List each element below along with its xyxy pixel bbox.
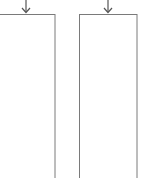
arrow-down-icon [22,0,30,13]
diagram-canvas [0,0,147,178]
box-left [0,15,55,179]
arrow-down-icon [104,0,112,13]
box-right [80,15,138,179]
